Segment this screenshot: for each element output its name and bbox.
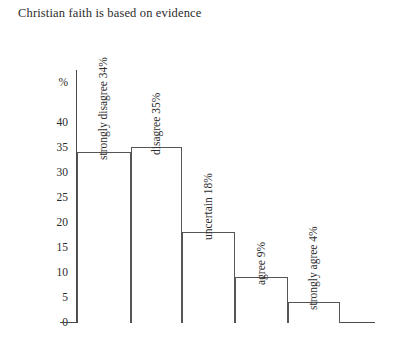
bar-disagree [131,147,182,323]
bar-chart: Christian faith is based on evidence % 0… [0,0,396,340]
bar-label-uncertain: uncertain 18% [202,173,214,240]
bar-label-strongly-agree: strongly agree 4% [307,226,319,310]
bar-label-strongly-disagree: strongly disagree 34% [97,57,109,160]
bar-label-disagree: disagree 35% [150,93,162,155]
bar-strongly-disagree [77,152,131,323]
bar-uncertain [182,232,235,323]
plot-area: strongly disagree 34%disagree 35%uncerta… [0,0,396,340]
bar-label-agree: agree 9% [255,242,267,285]
